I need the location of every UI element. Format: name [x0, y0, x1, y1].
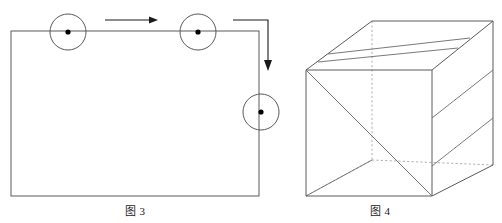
top-right-edge: [432, 21, 493, 70]
loop-rectangle: [11, 31, 259, 196]
figures-canvas: [0, 0, 502, 223]
front-diagonal-2: [306, 160, 372, 196]
figure-4-caption: 图 4: [300, 202, 460, 218]
figure-4-group: [306, 21, 493, 196]
arrow-elbow-down: [233, 20, 272, 71]
top-division-line-2: [318, 48, 458, 62]
right-bottom-edge: [432, 165, 493, 196]
figure-3-group: [11, 14, 279, 196]
arrow-horizontal-right: [105, 17, 158, 24]
node-dot-top-right: [195, 29, 200, 34]
cuboid-hidden-edges: [306, 21, 493, 196]
node-circle-top-left: [50, 14, 86, 50]
front-diagonal-1: [306, 70, 432, 196]
right-division-line-1: [432, 70, 493, 118]
node-circle-top-right: [180, 14, 216, 50]
node-dot-right: [258, 109, 263, 114]
cuboid-right-face-divisions: [432, 70, 493, 166]
top-left-edge: [306, 21, 372, 70]
figure-page: 图 3 图 4: [0, 0, 502, 223]
cuboid-front-diagonals: [306, 70, 432, 196]
top-division-line-1: [328, 38, 470, 54]
cuboid-right-face: [432, 21, 493, 196]
node-dot-top-left: [65, 29, 70, 34]
right-division-line-2: [432, 118, 493, 166]
figure-3-caption: 图 3: [0, 202, 270, 218]
node-circle-right: [243, 94, 279, 130]
